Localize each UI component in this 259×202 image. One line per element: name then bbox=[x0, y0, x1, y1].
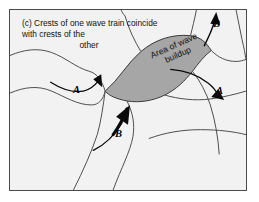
wave-a-crest-2 bbox=[10, 88, 105, 105]
wave-train-a-right-label: A bbox=[216, 85, 223, 96]
wave-b-crest-1 bbox=[73, 91, 105, 190]
wave-a-crest-5 bbox=[149, 130, 246, 139]
wave-b-crest-5 bbox=[190, 10, 196, 36]
figure-container: (c) Crests of one wave train coincide wi… bbox=[0, 0, 259, 202]
wave-train-a-left-label: A bbox=[73, 84, 80, 95]
wave-a-crest-1 bbox=[10, 50, 105, 91]
panel-caption: (c) Crests of one wave train coincide wi… bbox=[22, 18, 170, 50]
wave-train-b-top-label: B bbox=[213, 18, 220, 29]
caption-line-1: (c) Crests of one wave train bbox=[22, 18, 124, 28]
diagram-frame: (c) Crests of one wave train coincide wi… bbox=[9, 9, 247, 191]
wave-b-crest-3 bbox=[192, 71, 219, 154]
caption-line-3: other bbox=[22, 40, 170, 51]
wave-train-b-center-label: B bbox=[115, 128, 122, 139]
wave-a-crest-3 bbox=[211, 51, 246, 62]
wave-b-crest-6 bbox=[236, 10, 246, 59]
